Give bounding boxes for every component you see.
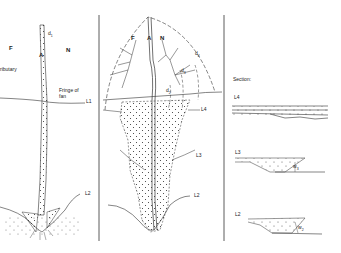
label-left-N: N bbox=[66, 47, 70, 53]
section-L3-label: L3 bbox=[235, 150, 241, 155]
label-d4: d4 bbox=[195, 51, 200, 59]
section-L4-label: L4 bbox=[234, 95, 240, 100]
right-panel bbox=[232, 106, 328, 234]
label-mid-N: N bbox=[160, 35, 164, 41]
section-L2-w2: w2 bbox=[298, 225, 304, 233]
label-mid-L2: L2 bbox=[194, 193, 200, 198]
section-title: Section: bbox=[233, 77, 251, 82]
section-L3 bbox=[235, 158, 325, 172]
section-L4 bbox=[232, 106, 328, 119]
section-L2-label: L2 bbox=[235, 212, 241, 217]
label-left-L2: L2 bbox=[85, 191, 91, 196]
section-L3-w3: w3 bbox=[293, 164, 299, 172]
label-left-d1: d1 bbox=[48, 31, 53, 39]
label-left-A: A bbox=[39, 52, 43, 58]
label-left-L1: L1 bbox=[86, 99, 92, 104]
label-mid-A: A bbox=[147, 35, 151, 41]
label-tributary: ributary bbox=[0, 67, 17, 72]
label-d3: d3 bbox=[181, 68, 186, 76]
label-mid-L4: L4 bbox=[201, 107, 207, 112]
label-d2: d2 bbox=[166, 88, 171, 96]
label-fringe-of-fan: Fringe offan bbox=[59, 88, 79, 99]
label-mid-F: F bbox=[131, 35, 135, 41]
section-L2 bbox=[248, 218, 322, 234]
label-left-F: F bbox=[9, 45, 13, 51]
middle-panel bbox=[103, 17, 222, 232]
fan-deposit-middle bbox=[120, 100, 190, 232]
label-mid-L3: L3 bbox=[196, 153, 202, 158]
